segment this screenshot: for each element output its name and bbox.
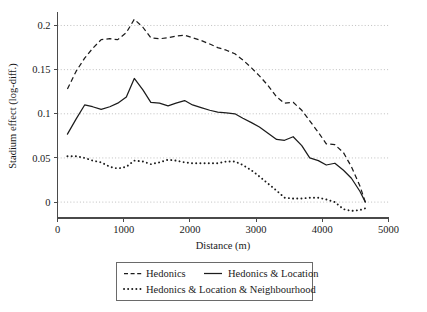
legend-label-2: Hedonics & Location & Neighbourhood [146, 284, 316, 295]
x-tick-label-0: 0 [55, 224, 60, 235]
x-axis-tick-labels: 010002000300040005000 [55, 224, 399, 235]
chart-legend: HedonicsHedonics & LocationHedonics & Lo… [116, 262, 319, 300]
x-tick-label-1: 1000 [113, 224, 134, 235]
data-series [67, 19, 365, 211]
x-tick-label-4: 4000 [312, 224, 333, 235]
legend-label-1: Hedonics & Location [228, 268, 319, 279]
x-tick-label-3: 3000 [246, 224, 267, 235]
legend-label-0: Hedonics [146, 268, 186, 279]
x-tick-label-2: 2000 [179, 224, 200, 235]
axis-ticks [54, 25, 389, 222]
y-axis-tick-labels: 00.050.10.150.2 [32, 20, 50, 208]
series-line-1 [67, 78, 365, 202]
x-axis-title: Distance (m) [196, 240, 251, 252]
axes [58, 12, 390, 218]
y-tick-label-3: 0.15 [32, 64, 50, 75]
y-tick-label-0: 0 [45, 197, 50, 208]
gridlines [58, 25, 389, 202]
y-axis-title: Stadium effect (log-diff.) [7, 63, 19, 169]
y-tick-label-4: 0.2 [37, 20, 50, 31]
stadium-effect-line-chart: 00.050.10.150.2 010002000300040005000 St… [0, 0, 427, 312]
y-tick-label-1: 0.05 [32, 153, 50, 164]
x-tick-label-5: 5000 [378, 224, 399, 235]
series-line-0 [67, 19, 365, 202]
chart-page: 00.050.10.150.2 010002000300040005000 St… [0, 0, 427, 312]
series-line-2 [67, 156, 365, 211]
y-tick-label-2: 0.1 [37, 108, 50, 119]
